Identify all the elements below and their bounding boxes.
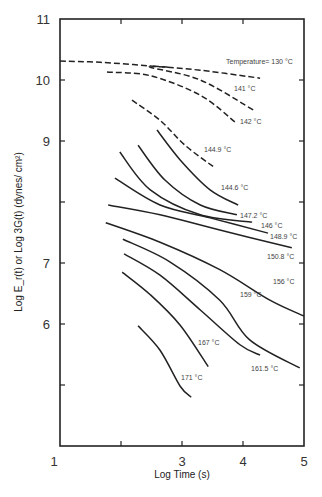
curve-label: Temperature= 130 °C: [226, 58, 293, 66]
curve-167: [122, 272, 208, 367]
curve-label: 159 °C: [240, 291, 261, 298]
curve-label: 161.5 °C: [251, 365, 278, 372]
data-curves: [60, 61, 304, 397]
curve-label: 141 °C: [234, 85, 255, 92]
curve-label: 171 °C: [181, 374, 202, 381]
y-tick-label: 6: [43, 317, 50, 332]
chart-svg: 13451110976 Temperature= 130 °C141 °C142…: [0, 0, 322, 497]
x-tick-label: 3: [178, 454, 185, 469]
curve-label: 147.2 °C: [240, 212, 267, 219]
curve-label: 156 °C: [273, 278, 294, 285]
curve-147.2: [138, 145, 237, 215]
x-tick-label: 4: [239, 454, 246, 469]
y-tick-label: 7: [43, 256, 50, 271]
y-tick-label: 11: [37, 12, 51, 27]
x-tick-label: 5: [300, 454, 307, 469]
curve-144.9: [132, 100, 215, 168]
y-axis-title: Log E_r(t) or Log 3G(t) (dynes/ cm²): [13, 152, 24, 312]
curve-label: 144.6 °C: [221, 184, 248, 191]
y-tick-label: 9: [43, 134, 50, 149]
axis-tick-labels: 13451110976: [36, 12, 308, 469]
y-tick-label: 10: [36, 73, 50, 88]
curve-label: 148.9 °C: [270, 233, 297, 240]
curve-label: 150.8 °C: [267, 253, 294, 260]
x-tick-label: 1: [50, 454, 57, 469]
curve-label: 144.9 °C: [204, 146, 231, 153]
curve-171: [138, 326, 191, 397]
curve-label: 142 °C: [240, 118, 261, 125]
curve-142: [107, 72, 235, 122]
curve-label: 167 °C: [198, 339, 219, 346]
x-axis-title: Log Time (s): [154, 469, 210, 480]
curve-labels: Temperature= 130 °C141 °C142 °C144.9 °C1…: [181, 58, 297, 381]
curve-label: 146 °C: [261, 222, 282, 229]
curve-144.6: [157, 130, 238, 205]
curve-161.5: [124, 254, 260, 355]
